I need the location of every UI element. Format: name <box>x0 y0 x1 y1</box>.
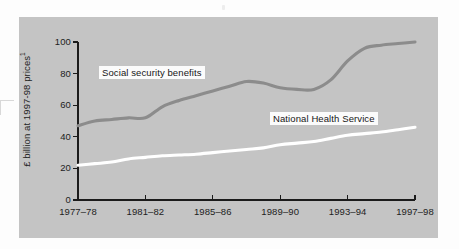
series-label-national-health-service: National Health Service <box>270 112 378 125</box>
chart-series-group <box>78 42 415 165</box>
series-label-social-security-benefits: Social security benefits <box>99 66 205 79</box>
y-axis-title: £ billion at 1997-98 prices1 <box>21 35 32 185</box>
y-axis-tick-label: 40 <box>33 131 71 142</box>
page-root: 020406080100 1977–781981–821985–861989–9… <box>0 0 459 249</box>
y-axis-ticks <box>73 42 78 200</box>
x-axis-tick-label: 1977–78 <box>43 206 113 217</box>
y-axis-tick-label: 100 <box>33 36 71 47</box>
y-axis-tick-label: 80 <box>33 68 71 79</box>
y-axis-tick-label: 20 <box>33 162 71 173</box>
x-axis-ticks <box>78 195 415 200</box>
x-axis-tick-label: 1989–90 <box>245 206 315 217</box>
x-axis-tick-label: 1981–82 <box>110 206 180 217</box>
x-axis-tick-label: 1985–86 <box>178 206 248 217</box>
y-axis-tick-label: 60 <box>33 99 71 110</box>
x-axis-tick-label: 1993–94 <box>313 206 383 217</box>
series-line-national-health-service <box>78 127 415 165</box>
y-axis-tick-label: 0 <box>33 194 71 205</box>
x-axis-tick-label: 1997–98 <box>380 206 450 217</box>
